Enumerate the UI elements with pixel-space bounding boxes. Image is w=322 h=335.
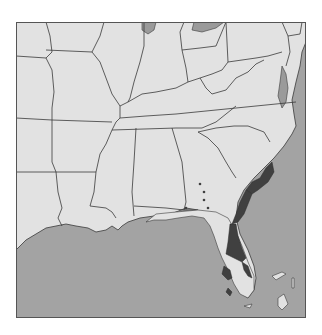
- range-map: [16, 22, 306, 318]
